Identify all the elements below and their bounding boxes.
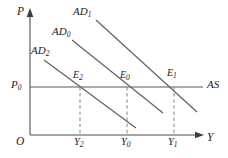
equilibrium-label-e1: E1	[167, 68, 177, 78]
diagram-canvas	[0, 0, 228, 158]
horizontal-axis-label: Y	[207, 132, 213, 144]
origin-label: O	[16, 136, 24, 148]
ad1-curve	[96, 20, 197, 112]
equilibrium-label-e0-sub: 0	[126, 73, 130, 82]
output-tick-label-y1-sub: 1	[174, 140, 178, 149]
ad2-label-text: AD	[31, 44, 46, 56]
output-tick-label-y0-sub: 0	[127, 140, 131, 149]
horizontal-axis	[30, 132, 204, 139]
vertical-axis-arrow	[27, 8, 34, 17]
horizontal-axis-arrow	[195, 132, 204, 139]
ad0-label: AD0	[52, 26, 70, 37]
equilibrium-label-e2: E2	[73, 70, 83, 80]
price-level-label-sub: 0	[18, 83, 22, 92]
price-level-label-text: P	[11, 78, 18, 90]
vertical-axis	[27, 8, 34, 135]
vertical-axis-label: P	[17, 6, 24, 18]
ad1-label-text: AD	[73, 5, 88, 17]
equilibrium-label-e2-sub: 2	[79, 73, 83, 82]
ad1-label-sub: 1	[88, 10, 92, 19]
ad0-label-sub: 0	[67, 30, 71, 39]
ad-as-diagram: P Y O AD1 AD0 AD2 AS P0 E2 E0 E1 Y2 Y0 Y…	[0, 0, 228, 158]
output-tick-label-y0-text: Y	[121, 136, 127, 147]
output-tick-label-y1: Y1	[168, 137, 178, 148]
equilibrium-label-e0: E0	[120, 70, 130, 80]
output-tick-label-y1-text: Y	[168, 136, 174, 147]
ad0-curve	[72, 40, 163, 113]
ad2-label: AD2	[31, 45, 49, 56]
output-tick-label-y2: Y2	[74, 137, 84, 148]
as-label: AS	[207, 79, 219, 90]
ad2-label-sub: 2	[46, 49, 50, 58]
ad1-label: AD1	[73, 6, 91, 17]
output-tick-label-y2-sub: 2	[80, 140, 84, 149]
output-tick-label-y0: Y0	[121, 137, 131, 148]
equilibrium-label-e1-sub: 1	[173, 71, 177, 80]
ad0-label-text: AD	[52, 25, 67, 37]
output-tick-label-y2-text: Y	[74, 136, 80, 147]
price-level-label: P0	[11, 79, 21, 90]
